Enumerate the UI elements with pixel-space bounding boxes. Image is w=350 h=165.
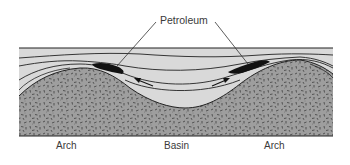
region-label-basin: Basin bbox=[164, 141, 189, 151]
petroleum-label: Petroleum bbox=[160, 15, 208, 26]
region-label-arch-right: Arch bbox=[264, 141, 285, 151]
region-label-arch-left: Arch bbox=[56, 141, 77, 151]
